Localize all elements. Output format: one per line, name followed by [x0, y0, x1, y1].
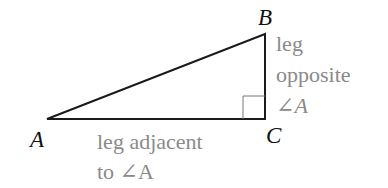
leg-opposite-label-line3: ∠A: [276, 94, 308, 118]
vertex-label-a: A: [30, 128, 44, 151]
leg-adjacent-label-line1: leg adjacent: [97, 130, 203, 154]
leg-adjacent-label-line2: to ∠A: [97, 160, 154, 184]
leg-opposite-label-line2: opposite: [276, 63, 351, 87]
triangle-figure: [0, 0, 388, 188]
leg-opposite-label-line1: leg: [276, 32, 303, 56]
right-angle-marker: [243, 96, 265, 119]
triangle-abc: [47, 34, 265, 119]
vertex-label-c: C: [266, 124, 281, 147]
vertex-label-b: B: [258, 6, 272, 29]
